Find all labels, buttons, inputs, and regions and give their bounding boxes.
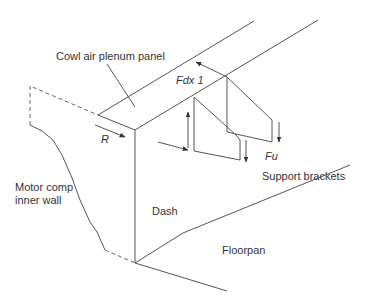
label-motor-comp-line2: inner wall <box>15 194 61 207</box>
motor-comp-wall <box>30 86 135 263</box>
label-floorpan: Floorpan <box>222 244 265 257</box>
label-force-fdx: Fdx 1 <box>176 74 204 87</box>
floorpan <box>135 165 350 291</box>
lateral-force-arrow <box>158 142 188 150</box>
label-motor-comp-line1: Motor comp <box>15 181 73 194</box>
reaction-arrow <box>95 125 125 137</box>
support-bracket-front <box>194 97 240 160</box>
label-dash: Dash <box>152 205 178 218</box>
cowl-panel <box>98 20 318 130</box>
support-bracket-rear <box>227 77 272 142</box>
label-cowl-panel: Cowl air plenum panel <box>56 50 165 63</box>
label-reaction: R <box>101 133 109 146</box>
label-support-brackets: Support brackets <box>262 170 345 183</box>
label-force-fu: Fu <box>265 150 278 163</box>
diagram-canvas <box>0 0 366 306</box>
